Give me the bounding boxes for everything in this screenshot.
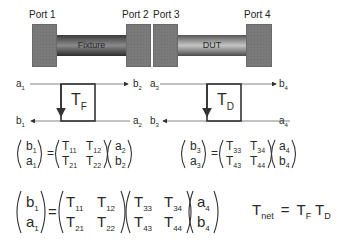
- b3-node-label: b3: [150, 115, 159, 128]
- tnet: Tnet: [252, 201, 274, 218]
- net-equation: Tnet = TF TD: [252, 201, 331, 221]
- eq2-lhs-a3: a3: [190, 154, 201, 169]
- eq3-t22: T22: [97, 213, 115, 233]
- eq3-t33: T33: [134, 193, 152, 213]
- a4-node-label: a4: [279, 115, 288, 128]
- eq3-t21: T21: [66, 213, 84, 233]
- eq1-rhs-a2: a2: [115, 139, 126, 154]
- b2-node-label: b2: [133, 78, 142, 91]
- tf-factor: TF: [297, 201, 312, 218]
- eq1-t22: T22: [86, 154, 101, 169]
- eq1-t21: T21: [62, 154, 77, 169]
- eq2-t34: T34: [250, 139, 265, 154]
- b1-node-label: b1: [16, 115, 25, 128]
- eq1-rhs-b2: b2: [115, 154, 126, 169]
- eq2-rhs-b4: b4: [279, 154, 290, 169]
- eq2-rhs-a4: a4: [279, 139, 290, 154]
- eq3-t34: T34: [164, 193, 182, 213]
- eq2-lhs-b3: b3: [190, 139, 201, 154]
- a3-node-label: a3: [150, 78, 159, 91]
- eq1-t11: T11: [62, 139, 77, 154]
- a2-node-label: a2: [133, 115, 142, 128]
- eq3-t43: T43: [134, 213, 152, 233]
- eq3-t11: T11: [66, 193, 83, 213]
- eq1-lhs-a1: a1: [26, 154, 37, 169]
- b4-node-label: b4: [279, 78, 288, 91]
- eq3-equals: =: [48, 203, 57, 220]
- td-factor: TD: [315, 201, 331, 218]
- eq2-equals: =: [211, 146, 218, 160]
- td-box-label: TD: [217, 91, 234, 112]
- eq1-equals: =: [47, 146, 54, 160]
- eq3-rhs-a4: a4: [197, 193, 210, 213]
- eq3-t44: T44: [164, 213, 182, 233]
- eq2-t43: T43: [226, 154, 241, 169]
- eq3-rhs-b4: b4: [197, 213, 210, 233]
- eq2-t33: T33: [226, 139, 241, 154]
- eq2-t44: T44: [250, 154, 265, 169]
- a1-node-label: a1: [16, 78, 25, 91]
- eq1-lhs-b1: b1: [26, 139, 37, 154]
- tf-box-label: TF: [71, 91, 87, 112]
- eq1-t12: T12: [86, 139, 101, 154]
- eq3-lhs-b1: b1: [26, 193, 39, 213]
- eq3-lhs-a1: a1: [26, 213, 39, 233]
- net-equals: =: [281, 201, 290, 218]
- eq3-t12: T12: [97, 193, 115, 213]
